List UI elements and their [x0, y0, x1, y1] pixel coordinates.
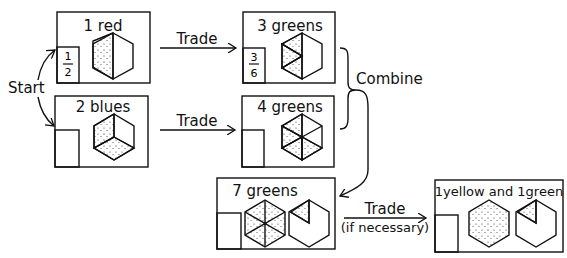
fraction-numerator: 3	[251, 51, 258, 64]
fraction-tab	[242, 130, 264, 167]
box-title: 2 blues	[76, 98, 131, 116]
fraction-numerator: 1	[65, 50, 72, 63]
box-title: 3 greens	[257, 17, 323, 35]
box-title: 1yellow and 1green	[435, 184, 563, 199]
fraction-tab	[435, 215, 458, 252]
combine-label: Combine	[356, 70, 423, 88]
combine-bracket	[340, 48, 356, 129]
box-title: 4 greens	[257, 98, 323, 116]
hexagon-two-thirds-shaded	[94, 114, 134, 160]
hexagon-four-sixths-shaded	[282, 114, 322, 160]
hexagon-one-sixth-shaded	[289, 200, 329, 247]
trade-label-bottom: Trade	[175, 112, 217, 130]
fraction-denominator: 6	[251, 67, 258, 80]
trade-label-final: Trade	[363, 200, 405, 218]
hexagon-half-shaded	[93, 33, 133, 79]
start-arrow-down	[38, 97, 54, 126]
start-label: Start	[8, 79, 45, 97]
start-arrow-up	[38, 50, 55, 80]
box-title: 1 red	[84, 17, 123, 35]
hexagon-full-six-sixths	[245, 200, 285, 247]
trade-label-top: Trade	[175, 30, 217, 48]
hexagon-three-sixths-shaded	[282, 33, 322, 79]
trade-note-if-necessary: (if necessary)	[341, 220, 429, 235]
box-title: 7 greens	[232, 182, 298, 200]
hexagon-one-sixth-shaded	[516, 200, 556, 247]
fraction-denominator: 2	[65, 66, 72, 79]
hexagon-yellow-whole	[469, 200, 509, 247]
fraction-tab	[217, 213, 241, 249]
combine-arrow	[340, 90, 368, 196]
fraction-tab	[55, 130, 79, 167]
trading-diagram: Start 1 red 1 2 2 blues 3 greens 3 6 4 g…	[0, 0, 567, 258]
